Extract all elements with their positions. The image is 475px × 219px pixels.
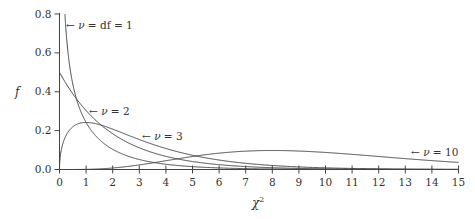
y-axis-label: f [14,85,22,99]
curve-df-1 [65,14,459,169]
y-tick-label: 0.6 [35,46,52,58]
x-tick-label: 12 [372,176,385,188]
annotation-df3: ← ν = 3 [142,130,183,142]
curve-df-2 [60,72,459,169]
annotation-df3-text: = 3 [161,130,183,142]
x-tick-label: 10 [319,176,332,188]
x-tick-label: 7 [242,176,249,188]
x-tick-label: 5 [189,176,196,188]
y-tick-label: 0.4 [35,85,52,97]
x-tick-label: 11 [345,176,358,188]
axes: 0.00.20.40.60.8 0123456789101112131415 [35,8,465,188]
annotation-df2-text: = 2 [108,105,130,117]
x-tick-label: 8 [269,176,276,188]
x-tick-label: 4 [163,176,170,188]
annotation-df1: ← ν = df = 1 [66,19,133,31]
annotation-df3-arrow: ← [142,130,154,142]
x-tick-label: 0 [56,176,63,188]
x-tick-label: 9 [296,176,303,188]
annotation-df10: ← ν = 10 [411,146,458,158]
y-tick-label: 0.8 [35,8,52,20]
annotation-df10-arrow: ← [411,146,423,158]
x-tick-label: 15 [452,176,465,188]
y-tick-label: 0.0 [35,163,52,175]
annotation-df2-arrow: ← [89,105,101,117]
x-tick-label: 1 [83,176,90,188]
x-tick-label: 13 [399,176,412,188]
x-tick-label: 2 [109,176,116,188]
curve-df-3 [60,122,459,169]
x-tick-label: 6 [216,176,223,188]
annotation-df10-text: = 10 [430,146,459,158]
x-tick-label: 3 [136,176,143,188]
annotation-df1-text: = df = 1 [85,19,133,31]
y-ticks: 0.00.20.40.60.8 [35,8,60,176]
x-axis-label: χ2 [251,195,264,210]
x-tick-label: 14 [425,176,439,188]
chi-square-chart: 0.00.20.40.60.8 0123456789101112131415 f… [0,0,475,219]
y-tick-label: 0.2 [35,124,52,136]
curve-df-10 [60,151,459,170]
annotation-df1-arrow: ← [66,19,78,31]
curves [60,14,459,170]
annotation-df2: ← ν = 2 [89,105,130,117]
x-axis-label-sup: 2 [259,195,264,204]
